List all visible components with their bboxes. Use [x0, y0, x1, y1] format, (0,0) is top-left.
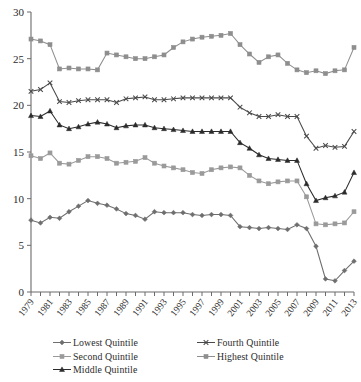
data-point-marker [105, 203, 110, 208]
data-point-marker [29, 37, 33, 41]
data-point-marker [333, 69, 337, 73]
legend-item-fourth-quintile[interactable]: Fourth Quintile [196, 336, 284, 350]
data-point-marker [95, 201, 100, 206]
data-point-marker [257, 60, 261, 64]
y-tick-label: 10 [13, 193, 25, 205]
data-point-marker [324, 223, 328, 227]
data-point-marker [238, 43, 242, 47]
data-point-marker [39, 157, 43, 161]
legend-swatch-square-icon [196, 351, 216, 362]
data-point-marker [295, 179, 299, 183]
data-point-marker [333, 222, 337, 226]
data-point-marker [143, 57, 147, 61]
data-point-marker [153, 55, 157, 59]
data-point-marker [267, 182, 271, 186]
legend-swatch-triangle-icon [52, 364, 72, 375]
data-point-marker [200, 35, 204, 39]
x-tick-label: 2003 [244, 297, 264, 318]
x-axis-tick-labels: 1979198119831985198719891991199319951997… [16, 297, 359, 318]
data-point-marker [124, 160, 128, 164]
legend-label: Second Quintile [73, 351, 138, 362]
data-point-marker [276, 180, 280, 184]
data-point-marker [86, 198, 91, 203]
data-point-marker [267, 55, 271, 59]
series-highest-quintile [29, 31, 356, 75]
y-tick-label: 15 [13, 146, 25, 158]
data-point-marker [276, 53, 280, 57]
data-point-marker [314, 244, 319, 249]
data-point-marker [190, 212, 195, 217]
data-point-marker [247, 111, 252, 116]
legend-swatch-square-icon [52, 351, 72, 362]
data-point-marker [247, 225, 252, 230]
y-axis-ticks: 051015202530 [13, 6, 31, 298]
data-point-marker [229, 165, 233, 169]
data-point-marker [219, 33, 223, 37]
data-point-marker [162, 210, 167, 215]
data-point-marker [162, 53, 166, 57]
data-point-marker [248, 173, 252, 177]
data-point-marker [191, 171, 195, 175]
data-point-marker [204, 354, 208, 358]
data-point-marker [143, 156, 147, 160]
y-tick-label: 0 [19, 286, 25, 298]
data-point-marker [219, 166, 223, 170]
data-point-marker [29, 218, 34, 223]
series-middle-quintile [29, 108, 357, 202]
data-point-marker [257, 226, 262, 231]
data-point-marker [276, 226, 281, 231]
data-point-marker [60, 354, 64, 358]
data-point-marker [115, 53, 119, 57]
legend-marker-icon [196, 351, 216, 362]
x-tick-label: 1979 [16, 297, 36, 318]
data-point-marker [304, 181, 309, 186]
data-point-marker [257, 179, 261, 183]
data-point-marker [58, 161, 62, 165]
data-point-marker [342, 190, 347, 195]
x-tick-label: 1995 [168, 297, 188, 318]
legend-label: Lowest Quintile [73, 337, 138, 348]
data-point-marker [96, 155, 100, 159]
legend-item-lowest-quintile[interactable]: Lowest Quintile [52, 336, 138, 350]
x-tick-label: 2013 [339, 297, 359, 318]
x-tick-label: 2009 [301, 297, 321, 318]
data-point-marker [67, 162, 71, 166]
chart-container: 051015202530 197919811983198519871989199… [0, 0, 361, 382]
x-tick-label: 2011 [321, 297, 341, 318]
data-point-marker [48, 215, 53, 220]
legend-item-second-quintile[interactable]: Second Quintile [52, 350, 138, 364]
data-point-marker [305, 195, 309, 199]
y-tick-label: 5 [19, 239, 25, 251]
data-point-marker [114, 207, 119, 212]
data-point-marker [229, 31, 233, 35]
legend-item-highest-quintile[interactable]: Highest Quintile [196, 350, 284, 364]
legend-marker-icon [52, 364, 72, 375]
legend-swatch-diamond-icon [52, 337, 72, 348]
data-point-marker [39, 39, 43, 43]
data-point-marker [266, 225, 271, 230]
data-point-marker [248, 52, 252, 56]
data-point-marker [60, 340, 65, 345]
series-lowest-quintile [29, 198, 357, 283]
data-point-marker [48, 151, 52, 155]
chart-axes [31, 12, 354, 292]
data-point-marker [352, 210, 356, 214]
legend-item-middle-quintile[interactable]: Middle Quintile [52, 363, 138, 377]
data-point-marker [191, 37, 195, 41]
y-tick-label: 20 [13, 99, 25, 111]
x-tick-label: 2007 [282, 297, 302, 318]
data-point-marker [219, 212, 224, 217]
legend-marker-icon [196, 337, 216, 348]
legend-column-left: Lowest QuintileSecond QuintileMiddle Qui… [52, 336, 138, 377]
data-point-marker [171, 210, 176, 215]
data-point-marker [48, 43, 52, 47]
data-point-marker [77, 158, 81, 162]
data-point-marker [238, 166, 242, 170]
data-point-marker [115, 161, 119, 165]
x-tick-label: 2005 [263, 297, 283, 318]
data-point-marker [314, 69, 318, 73]
x-axis-ticks [31, 292, 354, 296]
data-point-marker [352, 170, 357, 175]
data-point-marker [286, 61, 290, 65]
chart-series-layer [29, 31, 357, 283]
